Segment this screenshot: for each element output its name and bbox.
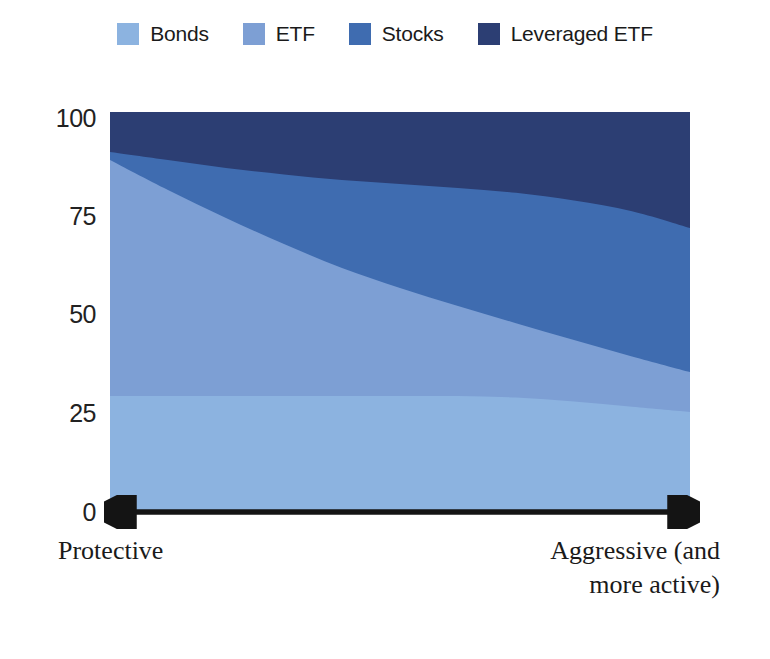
plot-area xyxy=(110,112,690,512)
chart-legend: Bonds ETF Stocks Leveraged ETF xyxy=(0,22,770,46)
y-tick-75: 75 xyxy=(0,202,96,231)
legend-label-stocks: Stocks xyxy=(382,22,444,46)
y-tick-100: 100 xyxy=(0,104,96,133)
y-tick-0: 0 xyxy=(0,498,96,527)
x-axis-label-right: Aggressive (and more active) xyxy=(470,534,720,603)
y-tick-25: 25 xyxy=(0,399,96,428)
legend-swatch-bonds xyxy=(117,23,139,45)
legend-label-bonds: Bonds xyxy=(150,22,209,46)
legend-item-stocks[interactable]: Stocks xyxy=(349,22,444,46)
legend-label-leveraged-etf: Leveraged ETF xyxy=(511,22,653,46)
legend-swatch-leveraged-etf xyxy=(478,23,500,45)
stacked-area-chart: Bonds ETF Stocks Leveraged ETF 100 75 50… xyxy=(0,0,770,659)
legend-swatch-etf xyxy=(243,23,265,45)
x-axis-label-right-line2: more active) xyxy=(470,568,720,602)
x-axis-label-right-line1: Aggressive (and xyxy=(470,534,720,568)
legend-item-bonds[interactable]: Bonds xyxy=(117,22,209,46)
area-layers xyxy=(110,112,690,512)
legend-item-leveraged-etf[interactable]: Leveraged ETF xyxy=(478,22,653,46)
legend-label-etf: ETF xyxy=(276,22,315,46)
legend-item-etf[interactable]: ETF xyxy=(243,22,315,46)
area-series-svg xyxy=(110,112,690,512)
x-axis-double-arrow xyxy=(104,495,700,529)
legend-swatch-stocks xyxy=(349,23,371,45)
x-axis-label-left: Protective xyxy=(58,534,163,568)
y-tick-50: 50 xyxy=(0,300,96,329)
